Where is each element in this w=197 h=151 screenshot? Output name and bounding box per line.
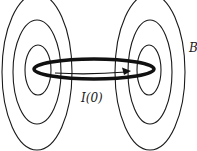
left-field-line-inner (25, 45, 51, 95)
current-label: I(0) (81, 92, 103, 104)
right-field-line-inner (137, 45, 161, 95)
current-loop-field-diagram: I(0) B (0, 0, 197, 151)
right-field-line-outer (115, 0, 185, 150)
left-field-lines (2, 0, 72, 150)
diagram-canvas (0, 0, 197, 151)
current-loop (34, 59, 154, 79)
arrowhead-icon (122, 68, 131, 76)
magnetic-field-label: B (189, 42, 197, 54)
right-field-lines (115, 0, 185, 150)
current-arrow (55, 68, 131, 76)
